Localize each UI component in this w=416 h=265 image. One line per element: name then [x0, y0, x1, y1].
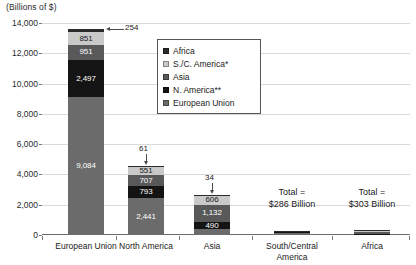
- bar-segment[interactable]: [274, 233, 310, 235]
- bar-segment-value: 1,132: [202, 209, 222, 217]
- x-axis-tick-mark: [332, 236, 333, 240]
- x-axis-label-line: Africa: [322, 241, 416, 252]
- bar-segment[interactable]: [274, 232, 310, 233]
- legend-item-n-america[interactable]: N. America**: [163, 83, 255, 96]
- total-label: Total =: [326, 187, 416, 199]
- bar-segment[interactable]: [354, 232, 390, 234]
- legend-swatch-icon: [163, 61, 169, 67]
- bar-segment[interactable]: 2,497: [68, 60, 104, 98]
- legend-item-s-c-america[interactable]: S./C. America*: [163, 57, 255, 70]
- callout-arrow-head: [144, 161, 148, 165]
- total-note-africa: Total =$303 Billion: [326, 187, 416, 210]
- y-axis-tick-label: 2,000: [17, 200, 38, 210]
- legend-item-africa[interactable]: Africa: [163, 44, 255, 57]
- y-axis-tick-label: 0: [33, 230, 38, 240]
- bar-segment[interactable]: 551: [128, 167, 164, 175]
- total-value: $303 Billion: [326, 199, 416, 211]
- y-axis-tick-mark: [39, 144, 42, 145]
- legend: AfricaS./C. America*AsiaN. America**Euro…: [157, 39, 261, 114]
- bar-segment[interactable]: [354, 231, 390, 232]
- total-note-south-central-america: Total =$286 Billion: [246, 187, 338, 210]
- bar-segment[interactable]: [128, 166, 164, 167]
- y-axis-tick-mark: [39, 23, 42, 24]
- bar-segment[interactable]: [354, 234, 390, 235]
- gridline: [42, 23, 410, 24]
- stacked-bar-chart: (Billions of $) 02,0004,0006,0008,00010,…: [0, 0, 416, 265]
- legend-swatch-icon: [163, 100, 169, 106]
- legend-item-label: European Union: [173, 98, 234, 108]
- bar-segment-value: 2,441: [136, 213, 156, 221]
- bar-european-union[interactable]: 9,0842,497951851: [68, 29, 104, 235]
- legend-item-label: Asia: [173, 72, 190, 82]
- bar-segment[interactable]: 1,132: [194, 205, 230, 222]
- bar-segment[interactable]: [274, 231, 310, 232]
- x-axis: European UnionNorth AmericaAsiaSouth/Cen…: [42, 236, 410, 265]
- bar-segment[interactable]: [68, 29, 104, 33]
- y-axis-tick-label: 14,000: [12, 18, 38, 28]
- x-axis-tick-mark: [409, 236, 410, 240]
- legend-swatch-icon: [163, 74, 169, 80]
- bar-segment[interactable]: [354, 230, 390, 231]
- legend-swatch-icon: [163, 48, 169, 54]
- bar-segment[interactable]: 793: [128, 186, 164, 198]
- y-axis-tick-mark: [39, 84, 42, 85]
- bar-north-america[interactable]: 2,441793707551: [128, 166, 164, 235]
- legend-item-label: S./C. America*: [173, 59, 228, 69]
- y-axis-tick-mark: [39, 174, 42, 175]
- x-axis-tick-mark: [116, 236, 117, 240]
- y-axis-tick-label: 6,000: [17, 139, 38, 149]
- total-value: $286 Billion: [246, 199, 338, 211]
- bar-segment-value: 951: [79, 48, 92, 56]
- bar-segment[interactable]: [194, 195, 230, 196]
- legend-item-european-union[interactable]: European Union: [163, 96, 255, 109]
- bar-segment[interactable]: 490: [194, 222, 230, 229]
- bar-segment[interactable]: 2,441: [128, 198, 164, 235]
- y-axis-tick-labels: 02,0004,0006,0008,00010,00012,00014,000: [0, 23, 38, 235]
- bar-segment[interactable]: 9,084: [68, 97, 104, 235]
- callout-label-34: 34: [205, 173, 214, 182]
- bar-segment-value: 793: [139, 188, 152, 196]
- callout-leader-line: [110, 29, 124, 30]
- bar-segment[interactable]: 606: [194, 196, 230, 205]
- y-axis-tick-label: 10,000: [12, 79, 38, 89]
- legend-swatch-icon: [163, 87, 169, 93]
- bar-segment-value: 851: [79, 35, 92, 43]
- bar-africa[interactable]: [354, 230, 390, 235]
- y-axis-unit-label: (Billions of $): [6, 2, 57, 12]
- callout-arrow-head: [210, 190, 214, 194]
- x-axis-label-4: Africa: [322, 241, 416, 252]
- callout-arrow-head: [106, 27, 110, 31]
- bar-segment[interactable]: [194, 229, 230, 235]
- bar-segment-value: 9,084: [76, 162, 96, 170]
- x-axis-tick-mark: [179, 236, 180, 240]
- legend-item-asia[interactable]: Asia: [163, 70, 255, 83]
- legend-item-label: Africa: [173, 46, 195, 56]
- y-axis-tick-mark: [39, 114, 42, 115]
- x-axis-label-line: America: [242, 252, 342, 263]
- total-label: Total =: [246, 187, 338, 199]
- bar-asia[interactable]: 4901,132606: [194, 195, 230, 235]
- legend-item-label: N. America**: [173, 85, 221, 95]
- callout-label-254: 254: [125, 23, 138, 32]
- bar-segment[interactable]: 851: [68, 32, 104, 45]
- bar-south-central-america[interactable]: [274, 231, 310, 235]
- y-axis-tick-label: 8,000: [17, 109, 38, 119]
- y-axis-tick-mark: [39, 53, 42, 54]
- bar-segment-value: 606: [205, 196, 218, 204]
- bar-segment[interactable]: 951: [68, 45, 104, 59]
- callout-label-61: 61: [139, 144, 148, 153]
- y-axis-tick-label: 12,000: [12, 48, 38, 58]
- bar-segment-value: 707: [139, 177, 152, 185]
- x-axis-tick-mark: [252, 236, 253, 240]
- bar-segment-value: 551: [139, 167, 152, 175]
- bar-segment-value: 490: [205, 222, 218, 229]
- y-axis-tick-label: 4,000: [17, 169, 38, 179]
- y-axis-tick-mark: [39, 205, 42, 206]
- bar-segment-value: 2,497: [76, 75, 96, 83]
- x-axis-tick-mark: [42, 236, 43, 240]
- bar-segment[interactable]: 707: [128, 175, 164, 186]
